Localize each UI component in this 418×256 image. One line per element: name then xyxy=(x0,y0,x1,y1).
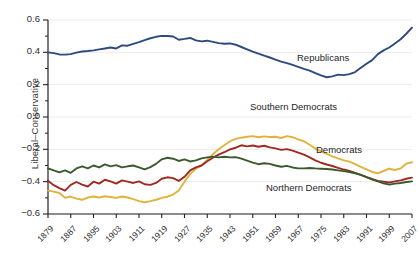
y-tick-label: −0.4 xyxy=(6,175,40,186)
series-annotation: Democrats xyxy=(316,144,362,155)
y-tick-label: 0.6 xyxy=(6,13,40,24)
series-annotation: Republicans xyxy=(297,52,349,63)
y-tick-label: 0.0 xyxy=(6,110,40,121)
y-tick-label: −0.6 xyxy=(6,207,40,218)
y-tick-label: 0.2 xyxy=(6,78,40,89)
plot-area xyxy=(0,0,418,256)
series-annotation: Northern Democrats xyxy=(266,182,352,193)
y-tick-label: −0.2 xyxy=(6,142,40,153)
chart-container: Liberal–Conservative 0.60.40.20.0−0.2−0.… xyxy=(0,0,418,256)
y-tick-label: 0.4 xyxy=(6,45,40,56)
series-annotation: Southern Democrats xyxy=(250,101,337,112)
